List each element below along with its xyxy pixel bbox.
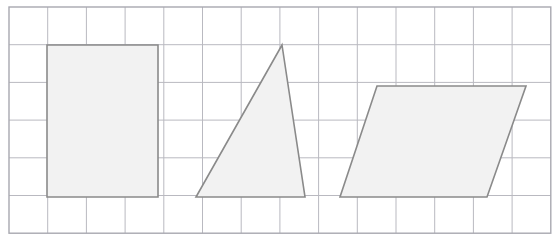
shape-triangle	[196, 45, 305, 197]
grid-and-shapes-svg	[0, 0, 560, 237]
geometry-figure-canvas	[0, 0, 560, 237]
shape-rectangle	[47, 45, 158, 197]
shape-parallelogram	[340, 86, 526, 197]
shapes-layer	[47, 45, 526, 197]
